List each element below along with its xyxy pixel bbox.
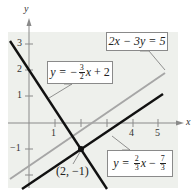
label-y-eq-2-3x-minus-7-3: y = 23 x − 73 <box>107 150 173 177</box>
y-axis-label: y <box>24 3 28 14</box>
label-y-eq-neg-3-2x-plus-2: y = − 32 x + 2 <box>47 61 113 84</box>
y-tick-label-neg1: −1 <box>10 142 21 153</box>
y-tick-label-3: 3 <box>17 37 22 48</box>
x-tick-label-1: 1 <box>51 127 56 138</box>
fraction-7-3: 73 <box>160 155 166 172</box>
x-tick-label-5: 5 <box>155 127 160 138</box>
y-tick-label-2: 2 <box>17 63 22 74</box>
y-axis-arrow-icon <box>27 18 32 26</box>
x-tick-label-4: 4 <box>129 127 134 138</box>
intersection-point <box>78 146 84 152</box>
label-2x-minus-3y-eq-5: 2x − 3y = 5 <box>106 32 168 51</box>
intersection-label: (2, −1) <box>56 164 89 179</box>
y-tick-label-1: 1 <box>17 89 22 100</box>
fraction-2-3: 23 <box>134 155 140 172</box>
fraction-3-2: 32 <box>79 64 85 81</box>
graph-figure: y x 1 4 5 3 2 1 −1 2x − 3y = 5 y = − 32 … <box>0 0 196 194</box>
x-axis-arrow-icon <box>176 121 184 126</box>
x-axis-label: x <box>186 116 190 127</box>
